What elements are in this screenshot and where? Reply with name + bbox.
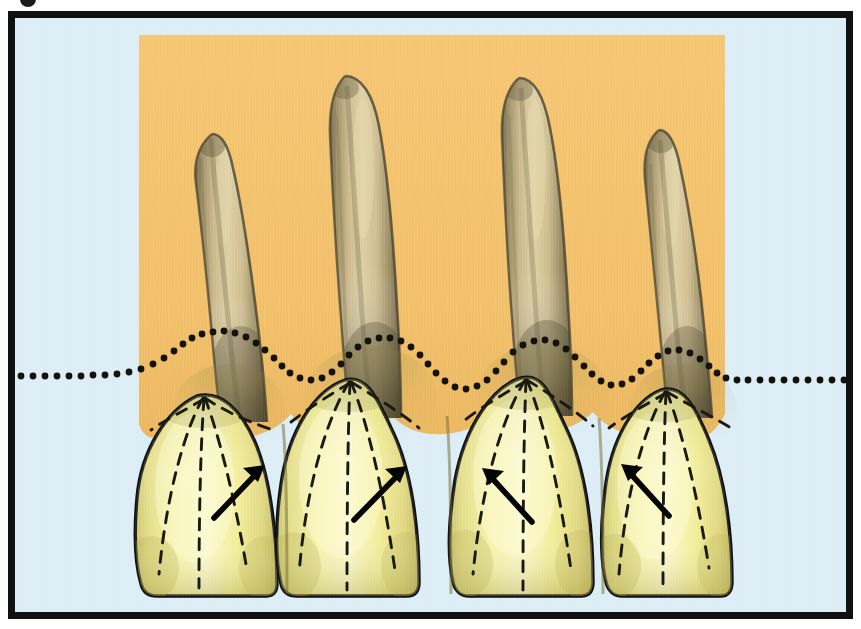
dental-illustration-svg (15, 18, 846, 612)
page-dot-mark (20, 0, 36, 7)
illustration-frame (8, 11, 853, 619)
figure-root (0, 0, 861, 629)
illustration-canvas (15, 18, 846, 612)
